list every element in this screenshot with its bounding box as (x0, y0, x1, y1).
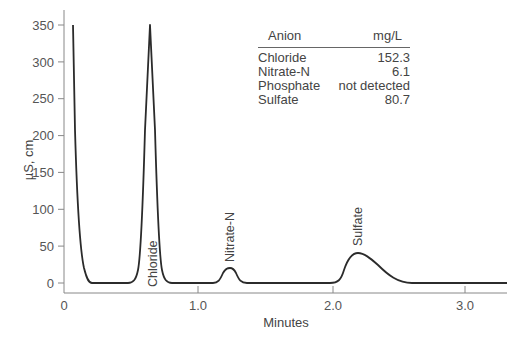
anion-results-table: Anion mg/L Chloride 152.3 Nitrate-N 6.1 … (258, 29, 410, 107)
x-tick-2: 2.0 (324, 298, 342, 313)
header-unit: mg/L (373, 29, 402, 43)
x-tick-0: 0 (60, 298, 67, 313)
x-ticks (198, 286, 465, 293)
x-tick-labels: 0 1.0 2.0 3.0 (60, 298, 474, 313)
table-row: Phosphate not detected (258, 79, 410, 93)
y-tick-300: 300 (32, 55, 54, 70)
y-tick-0: 0 (47, 276, 54, 291)
anion-name: Sulfate (258, 93, 298, 107)
x-tick-1: 1.0 (189, 298, 207, 313)
x-axis-title: Minutes (263, 315, 309, 330)
table-header: Anion mg/L (258, 29, 410, 47)
peak-label-sulfate: Sulfate (351, 207, 365, 246)
table-row: Sulfate 80.7 (258, 93, 410, 107)
table-row: Nitrate-N 6.1 (258, 65, 410, 79)
anion-value: 80.7 (385, 93, 410, 107)
anion-name: Chloride (258, 51, 306, 65)
header-anion: Anion (268, 29, 301, 43)
y-ticks (58, 25, 64, 283)
chromatogram-chart: 0 50 100 150 200 250 300 350 0 1.0 2.0 3… (0, 0, 509, 343)
x-tick-3: 3.0 (456, 298, 474, 313)
y-tick-250: 250 (32, 91, 54, 106)
anion-name: Nitrate-N (258, 65, 310, 79)
y-tick-100: 100 (32, 202, 54, 217)
anion-name: Phosphate (258, 79, 320, 93)
anion-value: 6.1 (392, 65, 410, 79)
anion-value: 152.3 (377, 51, 410, 65)
anion-value: not detected (338, 79, 410, 93)
y-axis-title: µS, cm (21, 140, 36, 181)
peak-label-chloride: Chloride (146, 240, 160, 287)
table-row: Chloride 152.3 (258, 51, 410, 65)
y-tick-50: 50 (40, 239, 54, 254)
header-rule (258, 47, 410, 48)
y-tick-350: 350 (32, 18, 54, 33)
peak-label-nitrate: Nitrate-N (223, 212, 237, 262)
